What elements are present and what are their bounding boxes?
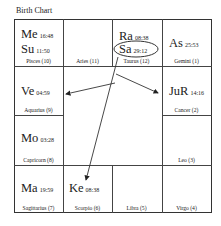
aspect-arrow-ke xyxy=(86,57,118,180)
aspect-arrow-ve xyxy=(66,83,115,94)
saturn-highlight-ellipse xyxy=(114,41,158,57)
aspect-arrow-jur xyxy=(116,74,158,93)
aspect-arrows xyxy=(0,0,221,226)
